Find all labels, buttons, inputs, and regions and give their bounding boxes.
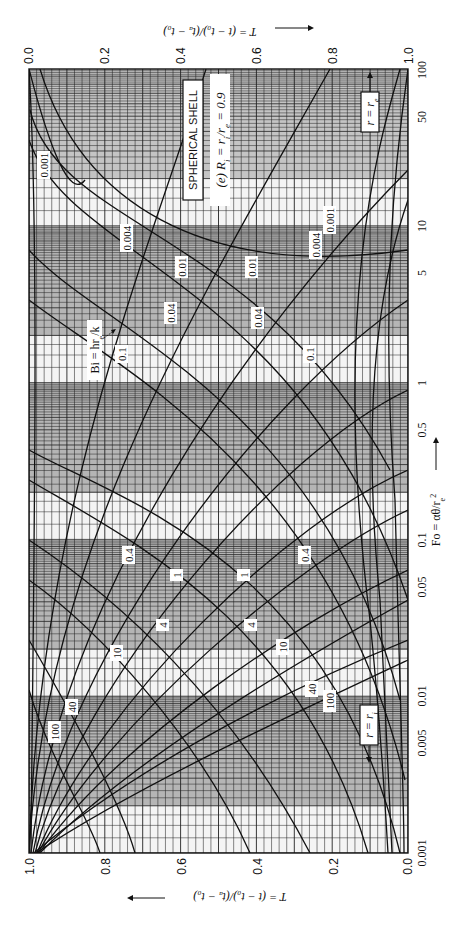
label-re-0.1: 0.1 xyxy=(116,347,128,361)
label-re-0.04: 0.04 xyxy=(165,303,177,323)
top-axis-ticks: 0.0 0.2 0.4 0.6 0.8 1.0 xyxy=(22,47,416,64)
chart-title: SPHERICAL SHELL xyxy=(183,80,203,200)
label-re-4: 4 xyxy=(157,622,169,628)
svg-text:100: 100 xyxy=(415,61,429,79)
label-re-0.004: 0.004 xyxy=(310,232,322,257)
top-axis-title: T = (t − t₀)/(tₐ − t₀) xyxy=(163,25,256,39)
svg-text:0.0: 0.0 xyxy=(22,47,36,64)
svg-text:T = (t − t₀)/(tₐ − t₀): T = (t − t₀)/(tₐ − t₀) xyxy=(163,25,256,39)
svg-text:0.0: 0.0 xyxy=(401,858,415,875)
label-re-0.01: 0.01 xyxy=(246,257,258,276)
svg-text:0.01: 0.01 xyxy=(415,686,429,707)
svg-text:0.8: 0.8 xyxy=(326,47,340,64)
svg-text:1: 1 xyxy=(415,380,429,386)
label-ri-100: 100 xyxy=(324,692,336,709)
legend-r-ri: r = ri xyxy=(360,705,380,745)
label-ri-0.1: 0.1 xyxy=(304,347,316,361)
svg-text:0.001: 0.001 xyxy=(415,840,429,867)
svg-text:5: 5 xyxy=(415,270,429,276)
label-re-100: 100 xyxy=(49,723,61,740)
label-ri-0.004: 0.004 xyxy=(121,225,133,250)
label-ri-0.4: 0.4 xyxy=(123,548,135,562)
label-ri-1: 1 xyxy=(171,572,183,578)
svg-text:10: 10 xyxy=(415,220,429,232)
fo-axis-title: Fo = αθ/re2 xyxy=(429,494,447,546)
title-text: SPHERICAL SHELL xyxy=(187,90,199,190)
label-ri-40: 40 xyxy=(306,683,318,695)
heisler-chart: 0.001 0.004 0.01 0.01 0.04 0.04 0.1 0.1 xyxy=(0,0,464,930)
svg-text:0.8: 0.8 xyxy=(99,858,113,875)
svg-text:0.005: 0.005 xyxy=(415,730,429,757)
label-ri-4: 4 xyxy=(245,622,257,628)
svg-text:0.4: 0.4 xyxy=(174,47,188,64)
legend-r-re: r = re xyxy=(361,92,381,132)
svg-text:1.0: 1.0 xyxy=(402,47,416,64)
fo-axis-ticks: 100 50 10 5 1 0.5 0.1 0.05 0.01 0.005 0.… xyxy=(415,61,429,867)
svg-text:0.4: 0.4 xyxy=(251,858,265,875)
label-ri-0.001: 0.001 xyxy=(38,153,50,178)
svg-text:0.2: 0.2 xyxy=(327,858,341,875)
svg-text:0.6: 0.6 xyxy=(175,858,189,875)
svg-text:0.5: 0.5 xyxy=(415,423,429,438)
bottom-axis-ticks: 1.0 0.8 0.6 0.4 0.2 0.0 xyxy=(23,858,415,875)
svg-text:T = (t − t₀)/(tₐ − t₀): T = (t − t₀)/(tₐ − t₀) xyxy=(193,890,286,904)
svg-text:0.1: 0.1 xyxy=(415,533,429,548)
svg-text:Fo = αθ/re2: Fo = αθ/re2 xyxy=(429,494,447,546)
label-ri-0.01: 0.01 xyxy=(176,257,188,276)
label-ri-0.04: 0.04 xyxy=(252,308,264,328)
label-ri-10: 10 xyxy=(277,641,289,653)
label-re-1: 1 xyxy=(238,572,250,578)
svg-text:50: 50 xyxy=(415,111,429,123)
svg-text:0.6: 0.6 xyxy=(250,47,264,64)
svg-text:1.0: 1.0 xyxy=(23,858,37,875)
svg-text:0.2: 0.2 xyxy=(98,47,112,64)
label-re-10: 10 xyxy=(111,647,123,659)
label-re-40: 40 xyxy=(66,701,78,713)
chart-subtitle: (e) Ri = ri/re = 0.9 xyxy=(210,74,232,206)
label-re-0.4: 0.4 xyxy=(299,548,311,562)
svg-text:0.05: 0.05 xyxy=(415,577,429,598)
label-re-0.001: 0.001 xyxy=(324,208,336,233)
bottom-axis-title: T = (t − t₀)/(tₐ − t₀) xyxy=(193,890,286,904)
